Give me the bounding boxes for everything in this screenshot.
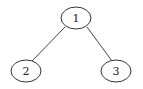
node-1: 1 xyxy=(61,7,91,29)
edge-1-2 xyxy=(32,27,65,61)
node-2: 2 xyxy=(11,60,41,82)
node-1-label: 1 xyxy=(73,12,80,25)
node-3-label: 3 xyxy=(113,65,120,78)
tree-diagram: 1 2 3 xyxy=(0,0,143,89)
node-3: 3 xyxy=(101,60,131,82)
edge-1-3 xyxy=(87,27,112,61)
node-2-label: 2 xyxy=(23,65,30,78)
edges xyxy=(32,27,112,61)
